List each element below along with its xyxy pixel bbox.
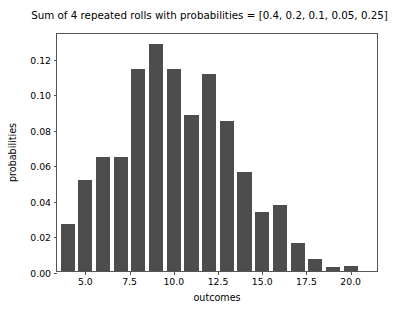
y-tick-label: 0.08 xyxy=(30,125,51,136)
bar xyxy=(167,69,181,271)
bar xyxy=(308,259,322,271)
y-axis-label-text: probabilities xyxy=(8,123,19,182)
bar xyxy=(114,157,128,271)
figure-canvas: Sum of 4 repeated rolls with probabiliti… xyxy=(0,0,419,315)
x-tick-mark xyxy=(262,271,263,275)
x-tick-mark xyxy=(351,271,352,275)
x-tick-label: 10.0 xyxy=(163,276,184,287)
bar xyxy=(237,172,251,271)
x-tick-label: 5.0 xyxy=(78,276,93,287)
y-axis-label: probabilities xyxy=(6,33,20,272)
y-tick-label: 0.02 xyxy=(30,232,51,243)
bar xyxy=(255,212,269,271)
y-tick-mark xyxy=(54,166,58,167)
bar xyxy=(61,224,75,271)
bars-layer xyxy=(57,34,377,271)
x-axis-label: outcomes xyxy=(56,292,378,303)
y-tick-mark xyxy=(54,273,58,274)
bar xyxy=(149,44,163,271)
x-tick-mark xyxy=(306,271,307,275)
x-tick-mark xyxy=(130,271,131,275)
x-tick-label: 7.5 xyxy=(122,276,137,287)
x-tick-mark xyxy=(174,271,175,275)
x-tick-mark xyxy=(218,271,219,275)
y-tick-label: 0.00 xyxy=(30,268,51,279)
bar xyxy=(220,121,234,271)
chart-title: Sum of 4 repeated rolls with probabiliti… xyxy=(0,9,419,21)
bar xyxy=(273,205,287,271)
bar xyxy=(96,157,110,271)
x-tick-mark xyxy=(85,271,86,275)
x-tick-label: 15.0 xyxy=(252,276,273,287)
bar xyxy=(184,115,198,271)
bar xyxy=(78,180,92,271)
bar xyxy=(131,69,145,271)
y-tick-label: 0.06 xyxy=(30,161,51,172)
x-tick-label: 20.0 xyxy=(340,276,361,287)
plot-area: 0.000.020.040.060.080.100.12 5.07.510.01… xyxy=(56,33,378,272)
y-tick-mark xyxy=(54,60,58,61)
bar xyxy=(291,243,305,271)
y-tick-label: 0.10 xyxy=(30,90,51,101)
bar xyxy=(202,74,216,271)
y-tick-mark xyxy=(54,237,58,238)
x-tick-label: 12.5 xyxy=(208,276,229,287)
y-tick-label: 0.12 xyxy=(30,54,51,65)
y-tick-mark xyxy=(54,95,58,96)
y-tick-mark xyxy=(54,202,58,203)
bar xyxy=(326,267,340,271)
y-tick-label: 0.04 xyxy=(30,196,51,207)
x-tick-label: 17.5 xyxy=(296,276,317,287)
y-tick-mark xyxy=(54,131,58,132)
